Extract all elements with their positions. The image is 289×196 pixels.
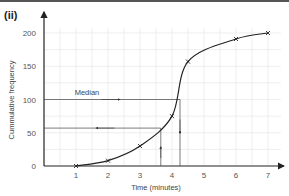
svg-text:200: 200 <box>23 29 37 38</box>
svg-text:0: 0 <box>32 162 37 171</box>
svg-text:2: 2 <box>106 171 111 180</box>
svg-text:1: 1 <box>74 171 79 180</box>
svg-text:6: 6 <box>234 171 239 180</box>
svg-text:4: 4 <box>170 171 175 180</box>
svg-text:50: 50 <box>27 129 36 138</box>
y-axis-label: Cummulative frequency <box>7 60 16 139</box>
svg-text:7: 7 <box>266 171 271 180</box>
svg-text:5: 5 <box>202 171 207 180</box>
svg-text:100: 100 <box>23 96 37 105</box>
cumulative-frequency-chart: 1234567050100150200 Time (minutes) Cummu… <box>0 0 289 196</box>
median-label: Median <box>75 88 100 97</box>
svg-text:150: 150 <box>23 62 37 71</box>
x-axis-label: Time (minutes) <box>131 183 181 192</box>
svg-text:3: 3 <box>138 171 143 180</box>
